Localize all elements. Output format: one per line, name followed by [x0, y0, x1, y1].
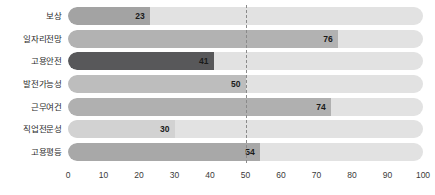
x-tick-50: 50 — [241, 170, 250, 180]
bar-fill-2[interactable] — [68, 52, 214, 70]
x-tick-60: 60 — [276, 170, 285, 180]
category-label-4: 근무여건 — [0, 98, 62, 116]
category-label-1: 일자리전망 — [0, 30, 62, 48]
bar-value-label-5: 30 — [160, 120, 174, 138]
x-tick-80: 80 — [347, 170, 356, 180]
x-tick-0: 0 — [66, 170, 71, 180]
bar-row: 직업전문성 30 — [0, 120, 435, 138]
x-tick-30: 30 — [170, 170, 179, 180]
bar-value-label-2: 41 — [199, 52, 213, 70]
x-tick-40: 40 — [205, 170, 214, 180]
bar-value-label-6: 54 — [245, 143, 259, 161]
bar-row: 고용평등 54 — [0, 143, 435, 161]
reference-line-50 — [246, 5, 247, 163]
x-tick-70: 70 — [312, 170, 321, 180]
x-tick-90: 90 — [383, 170, 392, 180]
category-label-0: 보상 — [0, 7, 62, 25]
bar-fill-3[interactable] — [68, 75, 246, 93]
x-tick-100: 100 — [416, 170, 430, 180]
bar-fill-5[interactable] — [68, 120, 175, 138]
x-axis: 0102030405060708090100 — [0, 170, 435, 188]
bar-value-label-0: 23 — [135, 7, 149, 25]
x-tick-20: 20 — [134, 170, 143, 180]
bar-row: 보상 23 — [0, 7, 435, 25]
bar-row: 근무여건 74 — [0, 98, 435, 116]
category-label-3: 발전가능성 — [0, 75, 62, 93]
category-label-2: 고용안전 — [0, 52, 62, 70]
horizontal-bar-chart: 보상 23 일자리전망 76 고용안전 41 발전가능성 50 — [0, 0, 435, 195]
bar-fill-4[interactable] — [68, 98, 331, 116]
bar-row: 고용안전 41 — [0, 52, 435, 70]
bar-row: 발전가능성 50 — [0, 75, 435, 93]
bar-value-label-3: 50 — [231, 75, 245, 93]
bar-fill-6[interactable] — [68, 143, 260, 161]
bar-row: 일자리전망 76 — [0, 30, 435, 48]
category-label-5: 직업전문성 — [0, 120, 62, 138]
bar-value-label-1: 76 — [323, 30, 337, 48]
bar-fill-1[interactable] — [68, 30, 338, 48]
bar-rows: 보상 23 일자리전망 76 고용안전 41 발전가능성 50 — [0, 7, 435, 167]
x-tick-10: 10 — [99, 170, 108, 180]
category-label-6: 고용평등 — [0, 143, 62, 161]
bar-value-label-4: 74 — [316, 98, 330, 116]
